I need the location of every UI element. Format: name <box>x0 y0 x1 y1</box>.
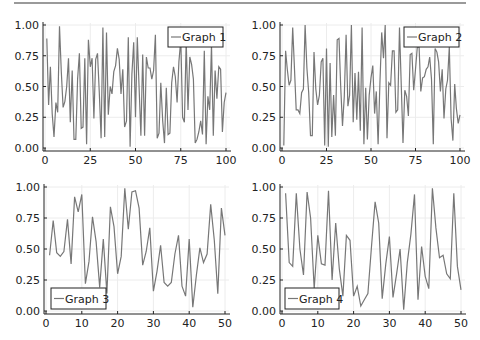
subplot-2: 02550751000.000.250.500.751.00Graph 2 <box>252 19 471 167</box>
y-tick-label: 1.00 <box>252 19 277 32</box>
x-tick-label: 25 <box>83 154 97 167</box>
y-tick-label: 0.25 <box>252 111 277 124</box>
x-tick-label: 0 <box>43 317 50 330</box>
y-tick-label: 0.25 <box>15 111 40 124</box>
y-tick-label: 0.75 <box>15 50 40 63</box>
y-tick-label: 0.50 <box>252 243 277 256</box>
x-tick-label: 50 <box>129 154 143 167</box>
x-tick-label: 40 <box>418 317 432 330</box>
x-tick-label: 10 <box>75 317 89 330</box>
subplot-1: 02550751000.000.250.500.751.00Graph 1 <box>15 19 237 167</box>
legend-label: Graph 4 <box>299 293 343 306</box>
y-tick-label: 0.75 <box>16 212 41 225</box>
x-tick-label: 40 <box>182 317 196 330</box>
y-tick-label: 1.00 <box>15 19 40 32</box>
y-tick-label: 0.00 <box>252 305 277 318</box>
y-tick-label: 0.50 <box>16 243 41 256</box>
x-tick-label: 50 <box>454 317 468 330</box>
y-tick-label: 0.50 <box>15 81 40 94</box>
x-tick-label: 0 <box>42 154 49 167</box>
y-tick-label: 1.00 <box>16 181 41 194</box>
y-tick-label: 0.00 <box>16 305 41 318</box>
x-tick-label: 75 <box>409 154 423 167</box>
x-tick-label: 30 <box>382 317 396 330</box>
chart-grid: 02550751000.000.250.500.751.00Graph 1025… <box>0 0 480 340</box>
x-tick-label: 25 <box>320 154 334 167</box>
x-tick-label: 0 <box>279 317 286 330</box>
x-tick-label: 0 <box>279 154 286 167</box>
y-tick-label: 0.50 <box>252 81 277 94</box>
x-tick-label: 30 <box>146 317 160 330</box>
x-tick-label: 10 <box>311 317 325 330</box>
y-tick-label: 1.00 <box>252 181 277 194</box>
y-tick-label: 0.00 <box>252 142 277 155</box>
x-tick-label: 100 <box>216 154 237 167</box>
legend-label: Graph 3 <box>65 293 109 306</box>
y-tick-label: 0.25 <box>252 274 277 287</box>
x-tick-label: 50 <box>218 317 232 330</box>
x-tick-label: 50 <box>364 154 378 167</box>
x-tick-label: 20 <box>347 317 361 330</box>
y-tick-label: 0.75 <box>252 50 277 63</box>
x-tick-label: 75 <box>174 154 188 167</box>
x-tick-label: 100 <box>450 154 471 167</box>
subplot-3: 010203040500.000.250.500.751.00Graph 3 <box>16 181 233 330</box>
subplot-4: 010203040500.000.250.500.751.00Graph 4 <box>252 181 469 330</box>
legend-label: Graph 2 <box>418 31 462 44</box>
y-tick-label: 0.00 <box>15 142 40 155</box>
x-tick-label: 20 <box>111 317 125 330</box>
y-tick-label: 0.25 <box>16 274 41 287</box>
y-tick-label: 0.75 <box>252 212 277 225</box>
legend-label: Graph 1 <box>182 31 226 44</box>
